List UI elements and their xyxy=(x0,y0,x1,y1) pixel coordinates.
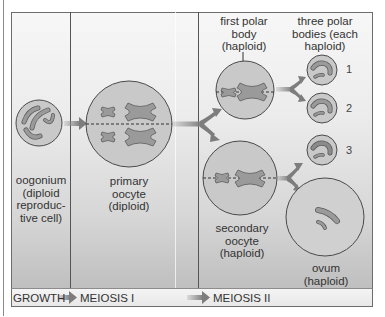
label-secondary-oocyte: secondary oocyte (haploid) xyxy=(210,222,274,260)
polar-body-1 xyxy=(307,55,337,85)
first-polar-body-cell xyxy=(216,52,274,119)
label-primary-oocyte: primary oocyte (diploid) xyxy=(99,175,159,213)
phase-arrow-meiosis1 xyxy=(187,291,210,304)
polar-body-number-1: 1 xyxy=(346,63,352,75)
polar-body-2 xyxy=(307,93,337,123)
polar-body-number-2: 2 xyxy=(346,102,352,114)
label-three-polar-bodies: three polar bodies (each haploid) xyxy=(285,15,365,53)
label-oogonium: oogonium (diploid reproduc- tive cell) xyxy=(13,174,69,224)
phase-meiosis-1: MEIOSIS I xyxy=(80,292,134,304)
polar-body-3 xyxy=(307,135,337,165)
label-first-polar-body: first polar body (haploid) xyxy=(209,15,279,53)
phase-meiosis-2: MEIOSIS II xyxy=(213,292,271,304)
label-ovum: ovum (haploid) xyxy=(295,262,357,287)
secondary-oocyte-cell xyxy=(203,141,277,215)
phase-growth: GROWTH xyxy=(13,292,65,304)
arrow-polar-split xyxy=(276,76,306,102)
arrow-growth xyxy=(64,117,87,130)
ovum-cell xyxy=(286,178,364,256)
primary-oocyte-cell xyxy=(86,81,172,167)
polar-body-number-3: 3 xyxy=(346,144,352,156)
oogonium-cell xyxy=(16,100,62,146)
arrow-meiosis1-split xyxy=(172,108,222,142)
